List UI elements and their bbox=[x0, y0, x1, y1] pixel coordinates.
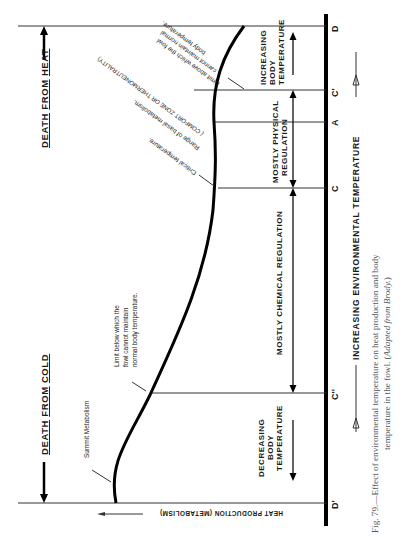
death-from-cold-arrow bbox=[40, 462, 48, 503]
svg-text:Limit below which the: Limit below which the bbox=[113, 305, 120, 367]
annotation-summit-metabolism: Summit Metabolism bbox=[83, 401, 90, 458]
caption-line2: temperature in the fowl. (Adapted from B… bbox=[382, 277, 392, 450]
point-label-d-prime: D' bbox=[330, 500, 340, 509]
point-label-a: A bbox=[330, 119, 340, 126]
region-decreasing-line3: TEMPERATURE bbox=[275, 405, 284, 471]
point-label-d: D bbox=[330, 25, 340, 32]
y-axis-label-group: HEAT PRODUCTION (METABOLISM) bbox=[97, 509, 283, 517]
region-increasing-line1: INCREASING bbox=[259, 30, 268, 85]
point-label-c-prime: C' bbox=[330, 88, 340, 97]
region-decreasing-line2: BODY bbox=[266, 435, 275, 460]
caption-line1: Fig. 79.—Effect of environmental tempera… bbox=[370, 254, 380, 533]
region-physical-line2: REGULATION bbox=[280, 119, 289, 176]
region-arrows bbox=[290, 32, 297, 481]
figure-caption: Fig. 79.—Effect of environmental tempera… bbox=[370, 254, 392, 533]
death-from-heat-label: DEATH FROM HEAT bbox=[39, 49, 50, 148]
region-decreasing-line1: DECREASING bbox=[257, 419, 266, 477]
region-increasing-line2: BODY bbox=[268, 60, 277, 85]
point-label-c-double-prime: C'' bbox=[330, 389, 340, 400]
annotation-limit-above: Limit above which the fowl cannot mainta… bbox=[155, 19, 221, 88]
y-axis-label: HEAT PRODUCTION (METABOLISM) bbox=[160, 509, 283, 517]
metabolism-curve bbox=[114, 26, 244, 503]
region-chemical: MOSTLY CHEMICAL REGULATION bbox=[275, 211, 284, 355]
annotation-leaders bbox=[92, 78, 244, 482]
svg-text:normal body temperature.: normal body temperature. bbox=[131, 292, 139, 367]
x-axis-label: INCREASING ENVIRONMENTAL TEMPERATURE bbox=[351, 136, 361, 360]
point-label-c: C bbox=[330, 185, 340, 192]
death-from-cold-label: DEATH FROM COLD bbox=[39, 354, 50, 455]
heat-production-diagram: DEATH FROM HEAT DEATH FROM COLD D C' A C… bbox=[0, 0, 405, 537]
annotation-limit-below: Limit below which the fowl cannot mainta… bbox=[113, 292, 139, 367]
region-physical-line1: MOSTLY PHYSICAL bbox=[271, 100, 280, 183]
x-axis-label-group: INCREASING ENVIRONMENTAL TEMPERATURE bbox=[351, 52, 361, 432]
svg-text:fowl cannot maintain: fowl cannot maintain bbox=[122, 307, 129, 367]
region-increasing-line3: TEMPERATURE bbox=[277, 19, 286, 85]
